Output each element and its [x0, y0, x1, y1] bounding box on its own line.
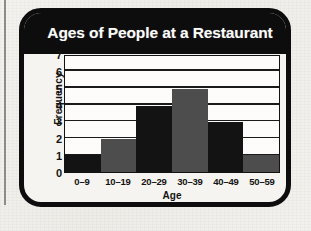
y-tick-label: 5: [56, 83, 62, 94]
x-tick-label: 40–49: [208, 176, 244, 187]
plot-area: [64, 55, 280, 173]
y-tick-label: 1: [56, 151, 62, 162]
y-tick-label: 2: [56, 134, 62, 145]
bar: [172, 89, 208, 172]
page-margin-rule: [4, 0, 6, 205]
y-axis-ticks: 01234567: [46, 55, 62, 173]
y-tick-label: 0: [56, 168, 62, 179]
y-tick-label: 6: [56, 66, 62, 77]
x-tick-label: 50–59: [244, 176, 280, 187]
bar: [243, 155, 279, 172]
x-tick-label: 20–29: [136, 176, 172, 187]
bar: [101, 139, 137, 172]
y-tick-label: 3: [56, 117, 62, 128]
x-axis-ticks: 0–910–1920–2930–3940–4950–59: [64, 176, 280, 187]
chart-title-bar: Ages of People at a Restaurant: [23, 12, 291, 54]
x-axis-label: Age: [64, 190, 280, 201]
chart-title: Ages of People at a Restaurant: [47, 24, 272, 42]
y-tick-label: 7: [56, 50, 62, 61]
chart-frame: Ages of People at a Restaurant Frequency…: [19, 8, 291, 207]
bar: [136, 106, 172, 172]
x-tick-label: 10–19: [100, 176, 136, 187]
x-tick-label: 30–39: [172, 176, 208, 187]
x-tick-label: 0–9: [64, 176, 100, 187]
y-tick-label: 4: [56, 100, 62, 111]
bar: [208, 122, 244, 172]
bar-series: [65, 56, 279, 172]
histogram: Frequency 01234567 0–910–1920–2930–3940–…: [24, 55, 286, 207]
bar: [65, 155, 101, 172]
